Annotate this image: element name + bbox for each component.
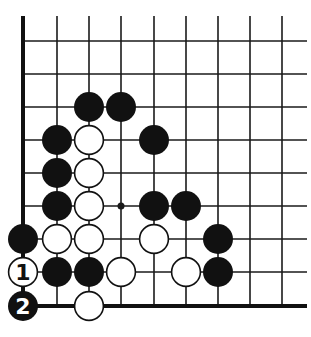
white-stone [75,292,104,321]
black-stone-icon [106,92,136,122]
white-stone [43,225,72,254]
black-stone [139,125,169,155]
black-stone-icon [42,125,72,155]
move-number-label: 2 [15,294,30,319]
white-stone [75,126,104,155]
black-stone [42,125,72,155]
white-stone [75,192,104,221]
black-stone [203,224,233,254]
black-stone-icon [139,125,169,155]
white-stone-icon [172,258,201,287]
white-stone-icon [75,292,104,321]
white-stone-icon [140,225,169,254]
star-points [118,203,125,210]
white-stone-icon [75,192,104,221]
white-stone [107,258,136,287]
black-stone-icon [42,257,72,287]
white-stone-icon [75,126,104,155]
white-stone-icon [75,159,104,188]
white-stone-icon [107,258,136,287]
black-stone-icon [74,92,104,122]
black-stone [42,257,72,287]
black-stone-icon [203,257,233,287]
black-stone-icon [74,257,104,287]
black-stone-icon [171,191,201,221]
black-stone [42,191,72,221]
black-stone [106,92,136,122]
white-stone-move-1: 1 [9,258,38,287]
white-stone [140,225,169,254]
black-stone-icon [42,191,72,221]
go-board: 12 [0,0,311,337]
black-stone-icon [42,158,72,188]
black-stone-move-2: 2 [8,291,38,321]
white-stone-icon [43,225,72,254]
black-stone-icon [139,191,169,221]
black-stone [42,158,72,188]
white-stone [172,258,201,287]
white-stone [75,159,104,188]
black-stone [8,224,38,254]
black-stone [74,92,104,122]
white-stone [75,225,104,254]
black-stone [171,191,201,221]
black-stone-icon [203,224,233,254]
black-stone-icon [8,224,38,254]
black-stone [74,257,104,287]
move-number-label: 1 [15,260,30,285]
star-point-icon [118,203,125,210]
black-stone [139,191,169,221]
white-stone-icon [75,225,104,254]
black-stone [203,257,233,287]
